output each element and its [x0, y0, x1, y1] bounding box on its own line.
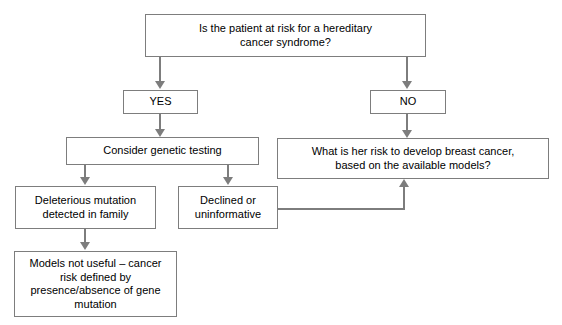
- connector-root-to-no: [406, 57, 408, 82]
- connector-yes-to-genetic-testing: [159, 114, 161, 130]
- node-risk-models-question: What is her risk to develop breast cance…: [277, 138, 549, 179]
- connector-declined-to-risk-models-vertical: [403, 187, 405, 209]
- node-root-question-label: Is the patient at risk for a hereditary …: [149, 22, 422, 49]
- arrowhead-deleterious-to-models-not-useful: [80, 242, 90, 250]
- node-root-question: Is the patient at risk for a hereditary …: [145, 14, 426, 57]
- node-models-not-useful: Models not useful – cancer risk defined …: [14, 251, 177, 317]
- connector-deleterious-to-models-not-useful: [84, 229, 86, 243]
- connector-root-to-yes: [159, 57, 161, 82]
- node-no-label: NO: [374, 95, 442, 109]
- flowchart-diagram: Is the patient at risk for a hereditary …: [0, 0, 562, 325]
- node-consider-genetic-testing: Consider genetic testing: [66, 137, 259, 165]
- node-yes-label: YES: [127, 95, 194, 109]
- node-no: NO: [370, 90, 446, 114]
- arrowhead-yes-to-genetic-testing: [155, 129, 165, 137]
- node-deleterious-mutation-label: Deleterious mutation detected in family: [19, 194, 152, 221]
- arrowhead-genetic-testing-to-declined: [223, 177, 233, 185]
- node-consider-genetic-testing-label: Consider genetic testing: [70, 144, 255, 158]
- arrowhead-genetic-testing-to-deleterious: [80, 177, 90, 185]
- connector-no-to-risk-models: [406, 114, 408, 130]
- node-risk-models-question-label: What is her risk to develop breast cance…: [281, 145, 545, 172]
- node-deleterious-mutation: Deleterious mutation detected in family: [15, 186, 156, 229]
- arrowhead-root-to-yes: [155, 81, 165, 89]
- node-declined-or-uninformative-label: Declined or uninformative: [182, 194, 274, 221]
- arrowhead-root-to-no: [402, 81, 412, 89]
- arrowhead-no-to-risk-models: [402, 130, 412, 138]
- node-yes: YES: [123, 90, 198, 114]
- arrowhead-declined-to-risk-models: [399, 179, 409, 187]
- node-declined-or-uninformative: Declined or uninformative: [178, 186, 278, 229]
- node-models-not-useful-label: Models not useful – cancer risk defined …: [18, 257, 173, 311]
- connector-declined-to-risk-models-horizontal: [277, 208, 405, 210]
